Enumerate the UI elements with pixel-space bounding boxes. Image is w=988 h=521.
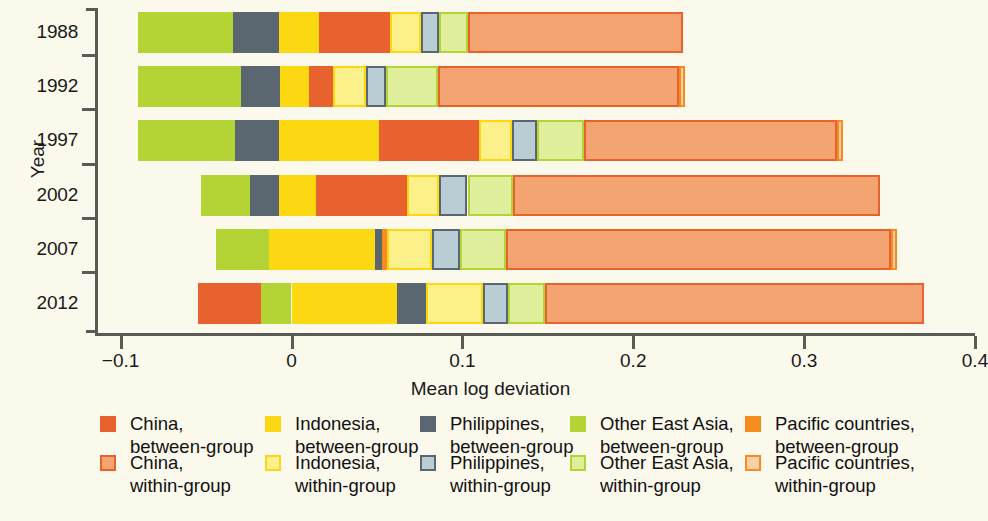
bar-segment (250, 175, 278, 216)
x-axis-tick (803, 336, 806, 349)
x-axis-tick-label: 0.3 (791, 350, 817, 372)
bar-segment (537, 120, 583, 161)
bar-segment (513, 175, 880, 216)
bar-segment (512, 120, 537, 161)
legend-label: Pacific countries,within-group (775, 452, 915, 497)
bar-segment (216, 229, 269, 270)
x-axis-tick-label: 0.1 (449, 350, 475, 372)
legend-swatch-icon (265, 416, 281, 432)
legend-swatch-icon (420, 416, 436, 432)
bar-segment (432, 229, 460, 270)
legend-swatch-icon (100, 455, 116, 471)
bar-segment (138, 12, 234, 53)
x-axis-tick (461, 336, 464, 349)
bar-segment (319, 12, 390, 53)
bar-segment (508, 283, 545, 324)
bar-segment (439, 12, 468, 53)
bar-segment (375, 229, 382, 270)
bar-segment (387, 229, 432, 270)
x-axis-title: Mean log deviation (0, 378, 981, 400)
bar-segment (407, 175, 439, 216)
bar-segment (309, 66, 333, 107)
legend-swatch-icon (265, 455, 281, 471)
bar-segment (460, 229, 505, 270)
legend-label-line1: Indonesia, (295, 452, 396, 475)
legend-swatch-icon (570, 455, 586, 471)
bar-segment (397, 283, 426, 324)
legend-label-line1: Indonesia, (295, 413, 418, 436)
chart-legend: China,between-groupChina,within-groupInd… (0, 405, 981, 521)
x-axis-tick-label: 0.2 (620, 350, 646, 372)
legend-swatch-icon (745, 416, 761, 432)
legend-label-line1: China, (130, 413, 253, 436)
plot-area (0, 0, 981, 333)
bar-segment (584, 120, 837, 161)
legend-label-line1: China, (130, 452, 231, 475)
y-axis-tick (82, 271, 96, 274)
bar-segment (235, 120, 278, 161)
legend-label: China,within-group (130, 452, 231, 497)
legend-label-line1: Philippines, (450, 413, 573, 436)
legend-label-line1: Pacific countries, (775, 452, 915, 475)
y-axis-tick (82, 217, 96, 220)
bar-segment (261, 283, 291, 324)
x-axis-line (95, 333, 975, 336)
x-axis-tick-label: −0.1 (102, 350, 140, 372)
legend-label-line2: within-group (450, 475, 551, 498)
bar-row (0, 66, 981, 107)
legend-label-line2: within-group (775, 475, 915, 498)
bar-row (0, 175, 981, 216)
bar-segment (201, 175, 250, 216)
bar-segment (679, 66, 685, 107)
legend-swatch-icon (100, 416, 116, 432)
legend-label: Other East Asia,within-group (600, 452, 734, 497)
bar-segment (426, 283, 482, 324)
bar-segment (198, 283, 261, 324)
legend-label-line1: Philippines, (450, 452, 551, 475)
bar-segment (279, 12, 319, 53)
bar-segment (316, 175, 407, 216)
y-axis-tick (82, 54, 96, 57)
y-axis-tick (82, 108, 96, 111)
y-axis-tick (82, 163, 96, 166)
bar-segment (386, 66, 438, 107)
bar-segment (438, 66, 679, 107)
x-axis-tick (291, 336, 294, 349)
bar-segment (506, 229, 891, 270)
bar-segment (269, 229, 375, 270)
x-axis-tick-label: 0.4 (962, 350, 988, 372)
x-axis-tick (120, 336, 123, 349)
bar-segment (292, 283, 398, 324)
legend-label-line1: Other East Asia, (600, 413, 734, 436)
bar-row (0, 283, 981, 324)
bar-segment (138, 120, 236, 161)
x-axis-tick (632, 336, 635, 349)
bar-segment (421, 12, 439, 53)
bar-row (0, 12, 981, 53)
x-axis-tick (974, 336, 977, 349)
bar-segment (279, 120, 379, 161)
bar-segment (439, 175, 467, 216)
y-axis-cap (86, 330, 98, 333)
legend-label-line1: Other East Asia, (600, 452, 734, 475)
bar-segment (233, 12, 278, 53)
legend-label: Philippines,within-group (450, 452, 551, 497)
bar-segment (280, 66, 308, 107)
bar-segment (468, 12, 683, 53)
bar-segment (468, 175, 513, 216)
bar-segment (241, 66, 280, 107)
bar-segment (279, 175, 316, 216)
legend-swatch-icon (420, 455, 436, 471)
bar-row (0, 229, 981, 270)
bar-segment (138, 66, 242, 107)
bar-segment (483, 283, 508, 324)
x-axis-tick-label: 0 (286, 350, 297, 372)
bar-segment (366, 66, 386, 107)
bar-row (0, 120, 981, 161)
legend-label: Indonesia,within-group (295, 452, 396, 497)
legend-swatch-icon (745, 455, 761, 471)
legend-label-line2: within-group (130, 475, 231, 498)
bar-segment (891, 229, 897, 270)
bar-segment (545, 283, 924, 324)
